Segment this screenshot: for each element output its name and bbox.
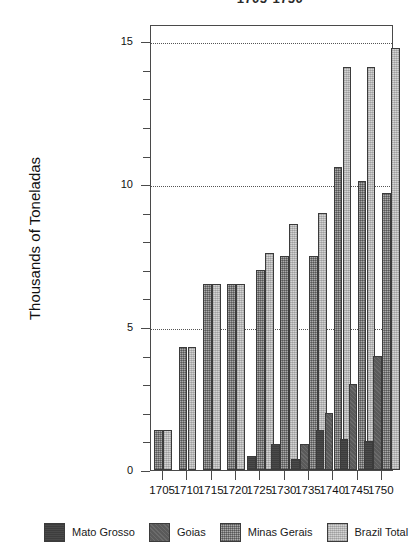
bar-1745-goias — [349, 384, 358, 470]
x-tick-1725 — [259, 471, 260, 480]
y-minor-tick-4 — [143, 357, 150, 358]
x-tick-1750 — [381, 471, 382, 480]
bar-1715-minas-gerais — [203, 284, 212, 470]
y-minor-tick-12 — [143, 128, 150, 129]
plot-area — [150, 25, 393, 471]
legend-swatch-icon-mato-grosso — [44, 523, 65, 542]
bar-1745-minas-gerais — [358, 181, 367, 470]
bar-1735-goias — [300, 444, 309, 470]
bar-1705-brazil-total — [163, 430, 172, 470]
x-tick-label-1750: 1750 — [361, 484, 401, 496]
x-tick-1715 — [211, 471, 212, 480]
y-tick-label-15: 15 — [103, 35, 133, 47]
legend-label: Brazil Total — [355, 526, 409, 538]
legend-label: Goias — [177, 526, 206, 538]
legend-item-mato-grosso[interactable]: Mato Grosso — [44, 523, 135, 542]
bar-1750-brazil-total — [391, 48, 400, 470]
legend-swatch-icon-brazil-total — [327, 523, 348, 542]
bar-1740-mato-grosso — [316, 430, 325, 470]
legend-item-minas-gerais[interactable]: Minas Gerais — [220, 523, 313, 542]
legend-item-goias[interactable]: Goias — [149, 523, 206, 542]
x-tick-1730 — [284, 471, 285, 480]
bar-1725-mato-grosso — [247, 456, 256, 470]
bar-1750-minas-gerais — [382, 193, 391, 470]
bar-1710-minas-gerais — [179, 347, 188, 470]
x-tick-1720 — [235, 471, 236, 480]
chart-legend: Mato GrossoGoiasMinas GeraisBrazil Total — [44, 519, 384, 545]
bar-1730-minas-gerais — [280, 256, 289, 470]
y-minor-tick-11 — [143, 157, 150, 158]
bar-1750-goias — [373, 356, 382, 470]
x-tick-1735 — [308, 471, 309, 480]
bar-1725-minas-gerais — [256, 270, 265, 470]
y-minor-tick-8 — [143, 242, 150, 243]
y-minor-tick-13 — [143, 99, 150, 100]
bar-1730-brazil-total — [289, 224, 298, 470]
y-minor-tick-6 — [143, 299, 150, 300]
bar-1750-mato-grosso — [364, 441, 373, 470]
gridline-y-15 — [151, 43, 392, 44]
y-minor-tick-3 — [143, 385, 150, 386]
bar-1730-mato-grosso — [271, 444, 280, 470]
y-tick-5 — [141, 328, 150, 329]
y-minor-tick-14 — [143, 71, 150, 72]
y-minor-tick-7 — [143, 271, 150, 272]
bar-1735-mato-grosso — [291, 459, 300, 470]
bar-1720-minas-gerais — [227, 284, 236, 470]
bar-1720-brazil-total — [236, 284, 245, 470]
y-minor-tick-1 — [143, 442, 150, 443]
x-tick-1710 — [186, 471, 187, 480]
gridline-y-10 — [151, 186, 392, 187]
x-tick-1745 — [357, 471, 358, 480]
legend-swatch-icon-minas-gerais — [220, 523, 241, 542]
y-minor-tick-2 — [143, 414, 150, 415]
bar-1745-mato-grosso — [340, 439, 349, 470]
bar-1725-brazil-total — [265, 253, 274, 470]
y-minor-tick-9 — [143, 214, 150, 215]
bar-1715-brazil-total — [212, 284, 221, 470]
x-tick-1740 — [332, 471, 333, 480]
bar-1710-brazil-total — [188, 347, 197, 470]
y-axis-title: Thousands of Toneladas — [26, 119, 43, 359]
y-tick-label-5: 5 — [103, 321, 133, 333]
legend-label: Mato Grosso — [72, 526, 135, 538]
y-tick-0 — [141, 471, 150, 472]
y-tick-15 — [141, 42, 150, 43]
y-tick-10 — [141, 185, 150, 186]
bar-1740-minas-gerais — [334, 167, 343, 470]
legend-item-brazil-total[interactable]: Brazil Total — [327, 523, 409, 542]
bar-1740-goias — [325, 413, 334, 470]
legend-swatch-icon-goias — [149, 523, 170, 542]
y-tick-label-10: 10 — [103, 178, 133, 190]
bar-1705-minas-gerais — [154, 430, 163, 470]
legend-label: Minas Gerais — [248, 526, 313, 538]
y-tick-label-0: 0 — [103, 464, 133, 476]
x-tick-1705 — [162, 471, 163, 480]
chart-title: 1705-1750 — [150, 0, 390, 3]
